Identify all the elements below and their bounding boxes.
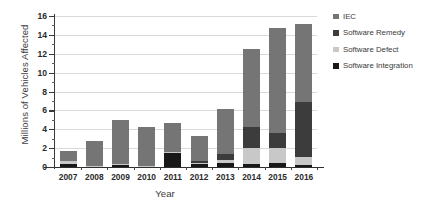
y-axis-minor-tick [52,101,56,102]
bar-segment[interactable] [138,127,155,165]
x-axis-tick [317,167,318,170]
bar-segment[interactable] [60,164,77,167]
bar-segment[interactable] [243,164,260,167]
bar-segment[interactable] [191,163,208,164]
y-axis-tick [49,35,55,36]
y-axis-tick-label: 10 [5,68,47,78]
bar-segment[interactable] [60,151,77,161]
bar-segment[interactable] [217,160,234,163]
y-axis-tick [49,54,55,55]
legend-item[interactable]: Software Integration [333,58,433,75]
y-axis-minor-tick [52,82,56,83]
bar-stack[interactable] [112,16,129,167]
x-axis-tick [134,167,135,170]
bar-segment[interactable] [243,49,260,127]
y-axis-tick-labels: 0246810121416 [0,0,47,214]
bar-segment[interactable] [191,164,208,167]
y-axis-minor-tick [52,158,56,159]
x-axis-tick [265,167,266,170]
bar-segment[interactable] [217,109,234,155]
y-axis-tick-label: 14 [5,30,47,40]
bar-segment[interactable] [269,148,286,163]
bar-stack[interactable] [191,16,208,167]
legend-swatch-icon [333,30,339,36]
x-axis-tick-label: 2016 [287,172,321,182]
bar-segment[interactable] [191,136,208,161]
y-axis-tick [49,73,55,74]
y-axis-minor-tick [52,139,56,140]
y-axis-tick [49,16,55,17]
bar-segment[interactable] [217,163,234,167]
bar-segment[interactable] [217,154,234,160]
bar-segment[interactable] [164,153,181,167]
bar-stack[interactable] [295,16,312,167]
bar-segment[interactable] [191,161,208,163]
y-axis-minor-tick [52,25,56,26]
y-axis-tick-label: 4 [5,124,47,134]
legend-item[interactable]: Software Remedy [333,25,433,42]
legend-item[interactable]: IEC [333,8,433,25]
bar-segment[interactable] [269,163,286,167]
bar-segment[interactable] [269,28,286,132]
legend-swatch-icon [333,63,339,69]
bar-segment[interactable] [112,165,129,167]
bar-segment[interactable] [60,161,77,164]
bar-segment[interactable] [86,166,103,167]
bar-segment[interactable] [138,166,155,167]
y-axis-tick-label: 16 [5,11,47,21]
bar-segment[interactable] [86,141,103,166]
y-axis-minor-tick [52,120,56,121]
x-axis-tick [107,167,108,170]
x-axis-tick [238,167,239,170]
bar-segment[interactable] [295,165,312,167]
bar-segment[interactable] [112,120,129,164]
legend-item-label: Software Integration [343,61,413,70]
bar-segment[interactable] [295,157,312,165]
legend-swatch-icon [333,14,339,20]
legend-swatch-icon [333,47,339,53]
bar-segment[interactable] [243,127,260,148]
y-axis-tick-label: 12 [5,49,47,59]
legend-item[interactable]: Software Defect [333,41,433,58]
bar-segment[interactable] [295,24,312,103]
legend-item-label: Software Remedy [343,28,405,37]
y-axis-minor-tick [52,63,56,64]
bar-segment[interactable] [243,148,260,164]
bar-segment[interactable] [269,133,286,148]
bar-chart: Millions of Vehicles Affected 0246810121… [0,0,433,214]
bar-stack[interactable] [269,16,286,167]
x-axis-tick [212,167,213,170]
legend-item-label: IEC [343,12,356,21]
x-axis-tick [291,167,292,170]
y-axis-tick-label: 0 [5,162,47,172]
bar-stack[interactable] [86,16,103,167]
y-axis-tick-label: 2 [5,143,47,153]
y-axis-minor-tick [52,44,56,45]
chart-legend: IECSoftware RemedySoftware DefectSoftwar… [333,8,433,74]
bar-segment[interactable] [164,152,181,153]
x-axis-tick [186,167,187,170]
bar-stack[interactable] [138,16,155,167]
bar-segment[interactable] [112,164,129,165]
y-axis-tick [49,167,55,168]
bar-stack[interactable] [60,16,77,167]
y-axis-tick-label: 8 [5,87,47,97]
x-axis-tick [160,167,161,170]
y-axis-tick [49,92,55,93]
x-axis-tick [81,167,82,170]
y-axis-tick [49,148,55,149]
y-axis-tick [49,110,55,111]
y-axis-tick [49,129,55,130]
y-axis-tick-label: 6 [5,105,47,115]
legend-item-label: Software Defect [343,45,398,54]
bar-segment[interactable] [295,102,312,157]
bar-stack[interactable] [243,16,260,167]
x-axis-title: Year [0,188,330,199]
bar-stack[interactable] [164,16,181,167]
bar-segment[interactable] [164,123,181,152]
bar-stack[interactable] [217,16,234,167]
